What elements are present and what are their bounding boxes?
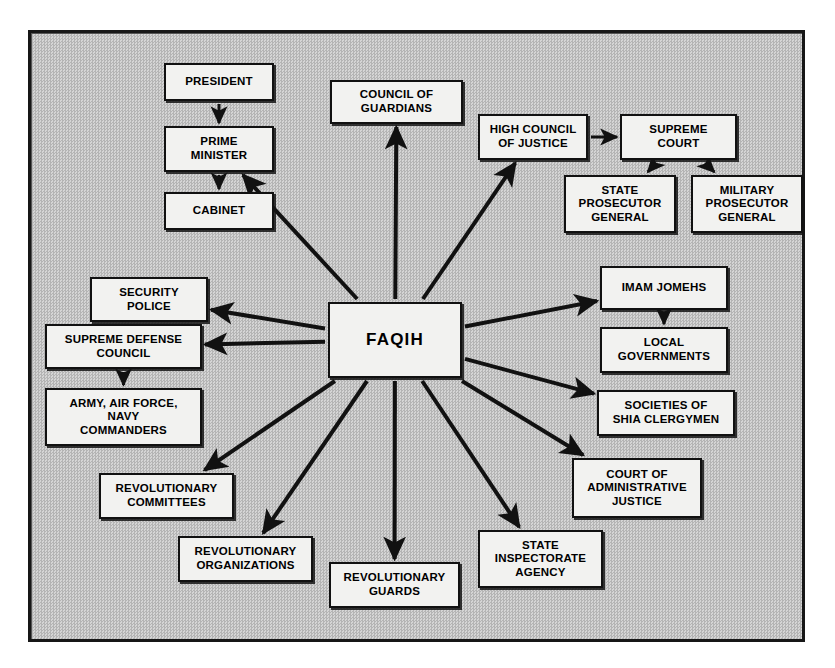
node-societies-shia: SOCIETIES OF SHIA CLERGYMEN (597, 390, 735, 436)
node-supreme-court: SUPREME COURT (620, 114, 737, 160)
node-high-council: HIGH COUNCIL OF JUSTICE (478, 114, 588, 160)
node-security-police: SECURITY POLICE (90, 277, 208, 322)
node-army-commanders: ARMY, AIR FORCE, NAVY COMMANDERS (45, 388, 202, 446)
node-prime-minister: PRIME MINISTER (164, 126, 274, 172)
node-faqih: FAQIH (328, 302, 462, 378)
organization-diagram: PRESIDENTPRIME MINISTERCABINETCOUNCIL OF… (0, 0, 835, 668)
node-imam-jomehs: IMAM JOMEHS (600, 266, 728, 310)
node-military-prosecutor: MILITARY PROSECUTOR GENERAL (691, 175, 803, 233)
node-state-prosecutor: STATE PROSECUTOR GENERAL (564, 175, 676, 233)
node-state-inspectorate: STATE INSPECTORATE AGENCY (478, 530, 603, 588)
node-court-admin: COURT OF ADMINISTRATIVE JUSTICE (572, 458, 702, 518)
node-local-governments: LOCAL GOVERNMENTS (600, 327, 728, 373)
node-rev-committees: REVOLUTIONARY COMMITTEES (99, 473, 234, 519)
node-council-guardians: COUNCIL OF GUARDIANS (330, 80, 463, 124)
node-president: PRESIDENT (164, 63, 274, 101)
node-rev-organizations: REVOLUTIONARY ORGANIZATIONS (178, 536, 313, 582)
node-rev-guards: REVOLUTIONARY GUARDS (329, 562, 460, 608)
node-supreme-defense: SUPREME DEFENSE COUNCIL (45, 324, 202, 369)
node-cabinet: CABINET (164, 192, 274, 230)
